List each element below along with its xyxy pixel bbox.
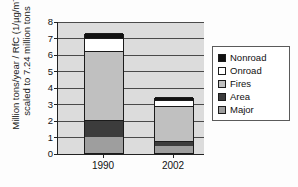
legend-label-onroad: Onroad: [230, 66, 262, 76]
y-gridline: [58, 88, 204, 89]
y-tick-label: 0: [41, 149, 53, 158]
y-tick-label: 3: [41, 100, 53, 109]
legend-swatch-fires: [218, 80, 226, 88]
legend-item-area[interactable]: Area: [218, 90, 285, 103]
y-axis-title: Million tons/year / RfC (1/µg/m-3) scale…: [4, 0, 38, 136]
y-tick-mark: [54, 121, 58, 122]
y-axis-title-line2: scaled to 7.24 million tons: [21, 6, 32, 115]
legend-item-onroad[interactable]: Onroad: [218, 64, 285, 77]
bar-segment-1990-onroad[interactable]: [85, 38, 123, 50]
bar-segment-2002-fires[interactable]: [155, 106, 193, 141]
bar-segment-1990-fires[interactable]: [85, 51, 123, 120]
bar-1990[interactable]: [84, 34, 124, 154]
y-gridline: [58, 55, 204, 56]
legend-item-fires[interactable]: Fires: [218, 77, 285, 90]
y-tick-mark: [54, 137, 58, 138]
bar-segment-2002-area[interactable]: [155, 141, 193, 145]
y-tick-mark: [54, 104, 58, 105]
y-tick-mark: [54, 154, 58, 155]
bar-2002[interactable]: [154, 98, 194, 154]
y-tick-label: 7: [41, 34, 53, 43]
y-tick-label: 2: [41, 116, 53, 125]
bar-segment-2002-onroad[interactable]: [155, 100, 193, 106]
legend-swatch-nonroad: [218, 54, 226, 62]
stacked-bar-chart-figure: Million tons/year / RfC (1/µg/m-3) scale…: [0, 0, 298, 187]
y-tick-mark: [54, 38, 58, 39]
x-tick-mark: [173, 154, 174, 158]
y-tick-mark: [54, 55, 58, 56]
legend-swatch-area: [218, 93, 226, 101]
y-gridline: [58, 38, 204, 39]
y-tick-label: 1: [41, 133, 53, 142]
y-gridline: [58, 22, 204, 23]
legend-swatch-onroad: [218, 67, 226, 75]
x-axis-label-1990: 1990: [73, 160, 133, 171]
bar-segment-2002-nonroad[interactable]: [155, 97, 193, 100]
legend-item-major[interactable]: Major: [218, 103, 285, 116]
chart-legend: NonroadOnroadFiresAreaMajor: [212, 46, 290, 121]
bar-segment-2002-major[interactable]: [155, 146, 193, 153]
y-tick-label: 6: [41, 50, 53, 59]
legend-label-nonroad: Nonroad: [230, 53, 266, 63]
y-tick-label: 4: [41, 83, 53, 92]
y-tick-label: 5: [41, 67, 53, 76]
y-gridline: [58, 71, 204, 72]
bar-segment-1990-area[interactable]: [85, 120, 123, 137]
y-tick-mark: [54, 88, 58, 89]
y-tick-mark: [54, 22, 58, 23]
legend-label-major: Major: [230, 105, 254, 115]
plot-area: 012345678: [57, 22, 204, 155]
bar-segment-1990-nonroad[interactable]: [85, 33, 123, 38]
legend-swatch-major: [218, 106, 226, 114]
bar-segment-1990-major[interactable]: [85, 137, 123, 154]
y-tick-label: 8: [41, 17, 53, 26]
legend-label-area: Area: [230, 92, 250, 102]
x-axis-label-2002: 2002: [143, 160, 203, 171]
legend-item-nonroad[interactable]: Nonroad: [218, 51, 285, 64]
x-tick-mark: [103, 154, 104, 158]
legend-label-fires: Fires: [230, 79, 251, 89]
y-tick-mark: [54, 71, 58, 72]
y-axis-title-exponent: -3: [9, 0, 16, 2]
y-axis-title-line1: Million tons/year / RfC (1/µg/m-3): [10, 0, 21, 130]
